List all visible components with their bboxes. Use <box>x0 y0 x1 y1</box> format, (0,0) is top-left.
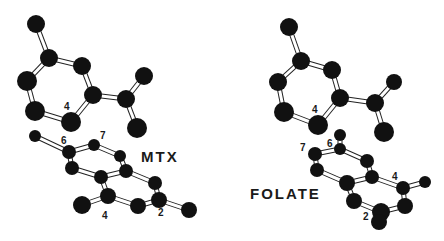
atom <box>29 130 41 142</box>
atom-number-label: 6 <box>327 139 333 149</box>
atom <box>114 150 126 162</box>
atom-number-label: 7 <box>300 143 306 153</box>
atom <box>117 90 135 108</box>
atom <box>339 175 355 191</box>
atom <box>334 143 346 155</box>
atom <box>17 71 37 91</box>
atom <box>65 161 79 175</box>
atom <box>84 86 102 104</box>
atom <box>346 193 362 209</box>
atom-number-label: 4 <box>102 211 108 221</box>
atom <box>374 122 394 142</box>
atom <box>331 89 349 107</box>
atom <box>274 102 294 122</box>
atom <box>292 52 310 70</box>
atom <box>181 202 197 218</box>
atom <box>27 15 45 33</box>
atom <box>308 115 328 135</box>
atom <box>73 196 91 214</box>
atom <box>366 94 384 112</box>
atom <box>40 49 58 67</box>
atom <box>135 67 153 85</box>
atom <box>308 147 322 161</box>
atom-number-label: 2 <box>363 212 369 222</box>
mtx-label: MTX <box>141 149 179 164</box>
folate-label: FOLATE <box>250 186 321 201</box>
atom-number-label: 2 <box>158 208 164 218</box>
atom-number-label: 4 <box>64 102 70 112</box>
atom <box>61 112 81 132</box>
atom <box>310 163 324 177</box>
atom <box>130 198 146 214</box>
atom <box>119 164 133 178</box>
atom <box>419 176 431 188</box>
bond-layer <box>27 24 425 222</box>
atom-number-label: 4 <box>392 172 398 182</box>
atom-layer <box>17 15 431 230</box>
atom <box>62 145 76 159</box>
atom <box>397 198 413 214</box>
atom-number-label: 4 <box>312 105 318 115</box>
atom-number-label: 6 <box>61 136 67 146</box>
atom <box>269 73 287 91</box>
atom <box>148 176 162 190</box>
atom <box>25 101 45 121</box>
atom <box>371 214 387 230</box>
atom-number-label: 7 <box>100 131 106 141</box>
molecule-diagram <box>0 0 444 241</box>
atom <box>280 18 298 36</box>
atom <box>360 154 374 168</box>
atom <box>73 57 91 75</box>
atom <box>396 181 410 195</box>
atom <box>88 139 100 151</box>
atom <box>334 129 346 141</box>
atom <box>386 74 402 90</box>
atom <box>127 118 147 138</box>
atom <box>323 61 341 79</box>
atom <box>151 192 167 208</box>
atom <box>94 170 108 184</box>
atom <box>365 170 379 184</box>
atom <box>100 188 116 204</box>
